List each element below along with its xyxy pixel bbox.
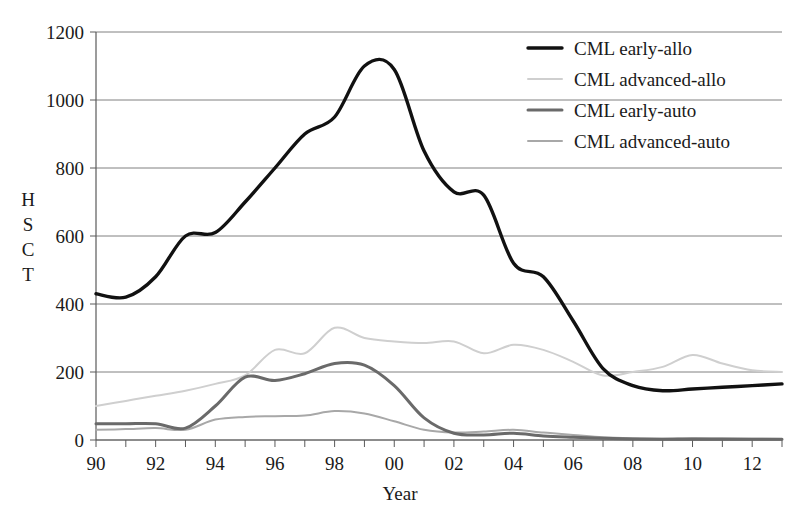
line-chart: 020040060080010001200 909294969800020406… <box>0 0 798 517</box>
y-tick-label: 400 <box>56 294 85 315</box>
y-tick-label: 0 <box>75 430 85 451</box>
x-tick-label: 06 <box>564 453 583 474</box>
y-tick-label: 200 <box>56 362 85 383</box>
x-tick-label: 00 <box>385 453 404 474</box>
y-axis <box>90 32 96 440</box>
y-tick-label: 600 <box>56 226 85 247</box>
gridlines <box>96 32 782 440</box>
series-line <box>96 362 782 439</box>
x-tick-label: 10 <box>683 453 702 474</box>
x-tick-label: 08 <box>623 453 642 474</box>
y-axis-title-char: T <box>22 264 34 285</box>
x-tick-label: 04 <box>504 453 524 474</box>
legend-label: CML early-allo <box>574 38 692 59</box>
chart-container: 020040060080010001200 909294969800020406… <box>0 0 798 517</box>
legend-label: CML advanced-auto <box>574 131 730 152</box>
x-tick-label: 12 <box>743 453 762 474</box>
x-tick-label: 96 <box>265 453 284 474</box>
x-tick-label: 92 <box>146 453 165 474</box>
y-axis-title-char: S <box>23 214 34 235</box>
y-axis-title: HSCT <box>21 189 35 285</box>
x-axis-title: Year <box>382 483 418 504</box>
x-tick-label: 02 <box>444 453 463 474</box>
series-line <box>96 327 782 406</box>
x-tick-labels: 909294969800020406081012 <box>87 453 762 474</box>
x-tick-label: 90 <box>87 453 106 474</box>
legend-label: CML early-auto <box>574 100 696 121</box>
series-line <box>96 411 782 439</box>
x-axis <box>96 440 782 447</box>
y-axis-title-char: C <box>22 239 35 260</box>
y-tick-label: 1000 <box>46 90 84 111</box>
x-tick-label: 94 <box>206 453 226 474</box>
legend-label: CML advanced-allo <box>574 69 726 90</box>
y-axis-title-char: H <box>21 189 35 210</box>
y-tick-labels: 020040060080010001200 <box>46 22 84 451</box>
y-tick-label: 1200 <box>46 22 84 43</box>
y-tick-label: 800 <box>56 158 85 179</box>
legend: CML early-alloCML advanced-alloCML early… <box>528 38 730 152</box>
x-tick-label: 98 <box>325 453 344 474</box>
